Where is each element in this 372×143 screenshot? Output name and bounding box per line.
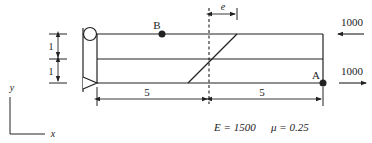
plate-diagram: e B A 1 1 5 5 1000 1000 y x E = 1500 μ =… (0, 0, 372, 143)
point-b-label: B (153, 19, 160, 31)
pin-support-icon (83, 77, 97, 89)
e-dim-label: e (221, 1, 226, 12)
top-load-label: 1000 (341, 16, 364, 28)
point-a-label: A (312, 69, 320, 81)
roller-support-icon (84, 28, 97, 41)
y-axis-label: y (9, 82, 15, 93)
material-e-label: E = 1500 (213, 121, 256, 133)
height-bottom-label: 1 (49, 66, 54, 77)
x-axis-label: x (50, 128, 56, 139)
material-mu-label: μ = 0.25 (270, 121, 309, 133)
point-a-marker (320, 80, 327, 87)
height-top-label: 1 (49, 41, 54, 52)
point-b-marker (159, 31, 166, 38)
bottom-load-label: 1000 (341, 65, 364, 77)
width-right-label: 5 (259, 86, 265, 98)
width-left-label: 5 (144, 86, 150, 98)
